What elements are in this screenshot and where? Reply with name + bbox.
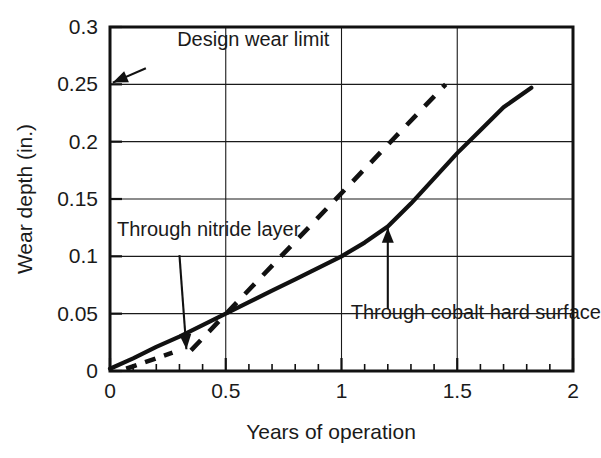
y-tick-label: 0.25 — [57, 72, 98, 95]
y-tick-label: 0.15 — [57, 187, 98, 210]
annotation-label-design-wear-limit: Design wear limit — [177, 28, 330, 50]
annotation-design-wear-limit: Design wear limit — [113, 28, 330, 82]
x-tick-label: 0 — [104, 379, 116, 402]
y-tick-label: 0.2 — [69, 130, 98, 153]
annotation-arrow-head — [179, 334, 191, 349]
x-tick-label: 1 — [336, 379, 348, 402]
x-axis-title: Years of operation — [246, 420, 416, 443]
annotation-label-through-cobalt-hard-surface: Through cobalt hard surface — [351, 301, 601, 323]
y-axis-tick-labels: 00.050.10.150.20.250.3 — [57, 15, 98, 382]
annotation-arrow-head — [113, 71, 129, 82]
x-tick-label: 2 — [567, 379, 579, 402]
y-tick-label: 0.05 — [57, 302, 98, 325]
chart-canvas: Design wear limitThrough nitride layerTh… — [0, 0, 601, 458]
x-axis-tick-labels: 00.511.52 — [104, 379, 579, 402]
annotation-label-through-nitride-layer: Through nitride layer — [117, 218, 301, 240]
annotation-through-cobalt-hard-surface: Through cobalt hard surface — [351, 228, 601, 324]
x-tick-label: 1.5 — [443, 379, 472, 402]
y-tick-label: 0.1 — [69, 244, 98, 267]
y-tick-label: 0.3 — [69, 15, 98, 38]
y-axis-title: Wear depth (in.) — [13, 124, 36, 274]
y-tick-label: 0 — [86, 359, 98, 382]
x-tick-label: 0.5 — [211, 379, 240, 402]
wear-depth-chart-figure: Design wear limitThrough nitride layerTh… — [0, 0, 601, 458]
chart-annotations: Design wear limitThrough nitride layerTh… — [113, 28, 601, 349]
